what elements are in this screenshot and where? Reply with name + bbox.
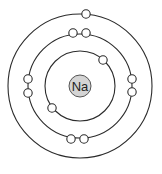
electron-shell3-1 — [82, 10, 90, 18]
element-symbol: Na — [72, 79, 89, 94]
electron-shell1-2 — [48, 104, 56, 112]
electron-shell1-1 — [99, 56, 107, 64]
electron-shell2-7 — [24, 75, 32, 83]
electron-shell2-1 — [69, 29, 77, 37]
electron-shell2-4 — [128, 88, 136, 96]
electron-shell2-2 — [82, 29, 90, 37]
electron-shell2-8 — [24, 89, 32, 97]
electron-shell2-3 — [128, 75, 136, 83]
electron-shell2-5 — [67, 135, 75, 143]
nucleus: Na — [69, 75, 91, 97]
electron-shell2-6 — [80, 135, 88, 143]
atom-diagram: Na — [0, 0, 162, 174]
